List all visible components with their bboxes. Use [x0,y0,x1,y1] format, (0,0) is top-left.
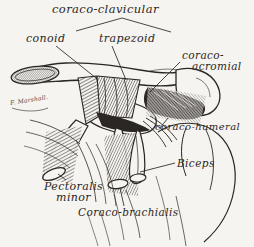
label-coraco-acromial-line2: acromial [182,61,242,72]
label-pectoralis-minor: Pectoralis minor [44,181,103,203]
label-trapezoid: trapezoid [99,33,155,44]
humeral-head [158,123,235,242]
label-coraco-acromial: coraco- acromial [182,50,242,71]
label-coraco-clavicular: coraco-clavicular [52,4,159,16]
label-biceps: Biceps [177,158,215,169]
clavicle-cut-surface [10,64,60,87]
bracket-coraco-clavicular [76,18,171,32]
pectoralis-minor-muscle [40,118,88,184]
anatomical-plate: coraco-clavicular conoid trapezoid corac… [0,0,254,247]
label-coraco-humeral: coraco-humeral [155,122,240,132]
label-pectoralis-minor-line2: minor [44,192,103,203]
label-coraco-brachialis: Coraco-brachialis [78,207,179,218]
label-conoid: conoid [26,33,65,44]
